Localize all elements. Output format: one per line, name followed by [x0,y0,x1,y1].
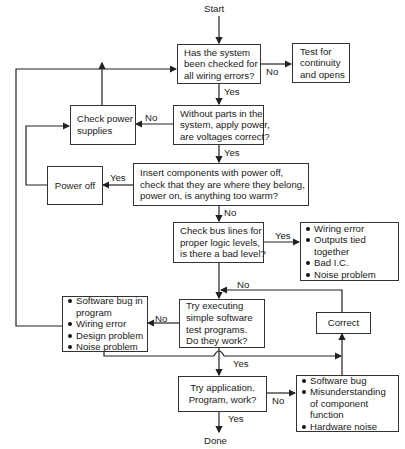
box-text: Check bus lines for [180,225,257,237]
check-power-supplies-box: Check power supplies [70,105,136,145]
edge-label-no: No [224,207,236,218]
box-text: is there a bad level? [180,248,257,260]
list-item: Bad I.C. [305,257,394,269]
list-item: Noise problem [305,269,394,281]
box-text: Try executing [186,300,258,312]
box-text: Without parts in the [180,108,257,120]
list-item: Design problem [67,330,143,342]
box-text: power on, is anything too warm? [140,190,302,202]
edge-label-no: No [272,395,284,406]
box-text: Power off [55,180,95,192]
box-text: all wiring errors? [184,70,254,82]
box-text: simple software [186,312,258,324]
box-text: Test for [300,46,343,58]
list-item: Wiring error [67,318,143,330]
box-text: Correct [328,317,359,329]
box-text: test programs. [186,324,258,336]
edge-label-no: No [155,313,167,324]
wiring-check-decision: Has the system been checked for all wiri… [177,44,261,84]
list-item: Misunderstanding [301,386,394,398]
try-application-decision: Try application. Program, work? [178,376,267,412]
edge-label-yes: Yes [275,230,291,241]
edge-label-yes: Yes [110,172,126,183]
box-text: Check power [77,113,129,125]
box-text: supplies [77,125,129,137]
correct-box: Correct [316,312,371,334]
edge-label-yes: Yes [233,358,249,369]
list-item: Hardware noise [301,421,394,433]
insert-components-decision: Insert components with power off, check … [133,163,309,206]
list-item: Noise problem [67,341,143,353]
voltages-decision: Without parts in the system, apply power… [173,105,264,145]
list-item: Software bug in [67,295,143,307]
test-fail-causes-list: Software bug in program Wiring error Des… [62,296,148,352]
box-text: and opens [300,69,343,81]
edge-label-no: No [266,66,278,77]
start-terminal: Start [204,3,224,14]
edge-label-no: No [237,279,249,290]
done-terminal: Done [204,435,227,446]
list-item-continuation: of component [301,398,394,410]
box-text: Try application. [190,382,255,394]
edge-label-yes: Yes [224,86,240,97]
list-item: Wiring error [305,223,394,235]
box-text: system, apply power, [180,119,257,131]
box-text: Program, work? [189,394,257,406]
box-text: Insert components with power off, [140,167,302,179]
list-item-continuation: together [305,246,394,258]
try-executing-decision: Try executing simple software test progr… [179,299,265,348]
box-text: proper logic levels, [180,237,257,249]
list-item: Outputs tied [305,234,394,246]
box-text: are voltages correct? [180,131,257,143]
box-text: Has the system [184,47,254,59]
list-item-continuation: program [67,307,143,319]
list-item: Software bug [301,375,394,387]
edge-label-yes: Yes [224,147,240,158]
test-continuity-box: Test for continuity and opens [292,43,350,83]
app-fail-causes-list: Software bug Misunderstanding of compone… [296,375,399,432]
list-item-continuation: function [301,409,394,421]
edge-label-no: No [145,112,157,123]
bad-level-causes-list: Wiring error Outputs tied together Bad I… [300,222,399,281]
power-off-box: Power off [47,166,103,205]
bus-lines-decision: Check bus lines for proper logic levels,… [173,222,264,263]
edge-label-yes: Yes [228,413,244,424]
box-text: continuity [300,57,343,69]
box-text: Do they work? [186,335,258,347]
box-text: been checked for [184,58,254,70]
box-text: check that they are where they belong, [140,179,302,191]
